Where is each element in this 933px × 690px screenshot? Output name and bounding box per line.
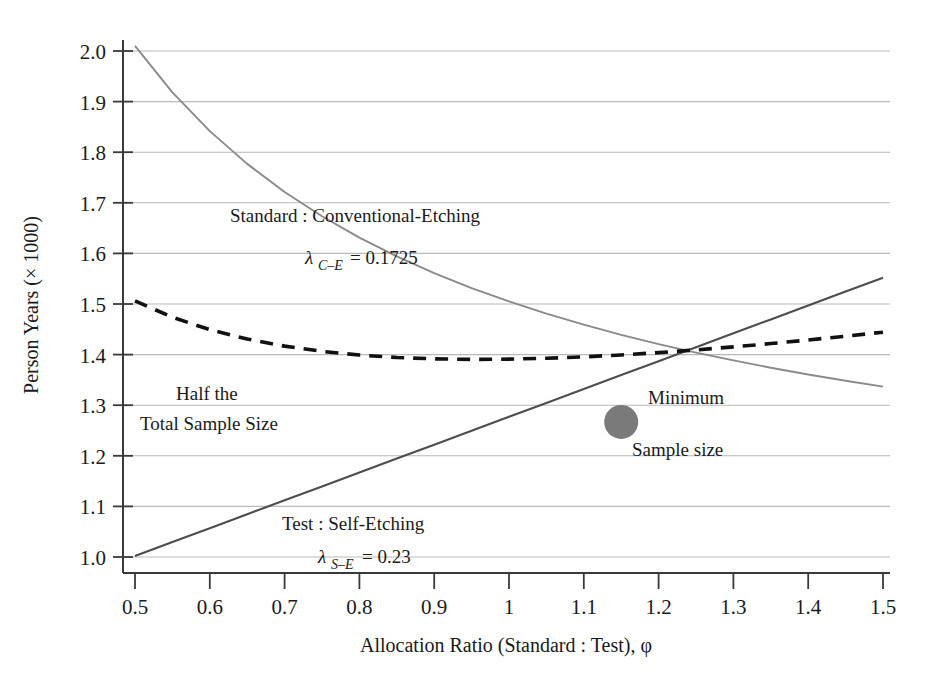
lambda-subscript-ce: C–E bbox=[318, 258, 343, 273]
x-tick-label: 0.7 bbox=[271, 595, 297, 619]
y-tick-label: 1.5 bbox=[80, 293, 106, 317]
chart-svg: 1.01.11.21.31.41.51.61.71.81.92.0 0.50.6… bbox=[0, 0, 933, 690]
lambda-subscript-se: S–E bbox=[331, 557, 354, 572]
x-tick-label: 0.6 bbox=[197, 595, 223, 619]
x-tick-label: 1.2 bbox=[645, 595, 671, 619]
lambda-value-ce: = 0.1725 bbox=[350, 247, 418, 268]
x-tick-label: 1.4 bbox=[795, 595, 822, 619]
annotation-minimum-line1: Minimum bbox=[648, 387, 724, 408]
y-tick-label: 1.2 bbox=[80, 445, 106, 469]
y-tick-label: 1.7 bbox=[80, 192, 106, 216]
annotation-standard-label: Standard : Conventional-Etching bbox=[230, 205, 481, 226]
annotation-minimum-line2: Sample size bbox=[632, 439, 723, 460]
y-tick-label: 1.4 bbox=[80, 344, 107, 368]
lambda-value-se: = 0.23 bbox=[362, 546, 411, 567]
x-tick-label: 0.8 bbox=[346, 595, 372, 619]
y-tick-label: 1.9 bbox=[80, 91, 106, 115]
y-tick-label: 1.6 bbox=[80, 242, 106, 266]
x-tick-label: 0.9 bbox=[421, 595, 447, 619]
y-tick-label: 1.0 bbox=[80, 546, 106, 570]
x-tick-label: 1.1 bbox=[571, 595, 597, 619]
y-axis-title: Person Years (× 1000) bbox=[20, 216, 43, 394]
annotation-test-label: Test : Self-Etching bbox=[282, 513, 425, 534]
x-tick-label: 0.5 bbox=[122, 595, 148, 619]
chart-background bbox=[0, 0, 933, 690]
y-tick-label: 2.0 bbox=[80, 40, 106, 64]
y-tick-label: 1.3 bbox=[80, 394, 106, 418]
y-tick-label: 1.1 bbox=[80, 495, 106, 519]
annotation-half-total-line2: Total Sample Size bbox=[140, 413, 278, 434]
minimum-sample-size-marker bbox=[604, 405, 638, 439]
x-axis-title: Allocation Ratio (Standard : Test), φ bbox=[360, 634, 652, 657]
x-tick-label: 1 bbox=[504, 595, 515, 619]
y-tick-label: 1.8 bbox=[80, 141, 106, 165]
lambda-symbol-se: λ bbox=[317, 546, 326, 567]
markers-group bbox=[604, 405, 638, 439]
lambda-symbol-ce: λ bbox=[304, 247, 313, 268]
annotation-half-total-line1: Half the bbox=[176, 383, 238, 404]
x-tick-label: 1.5 bbox=[870, 595, 896, 619]
x-tick-label: 1.3 bbox=[720, 595, 746, 619]
chart-figure: 1.01.11.21.31.41.51.61.71.81.92.0 0.50.6… bbox=[0, 0, 933, 690]
